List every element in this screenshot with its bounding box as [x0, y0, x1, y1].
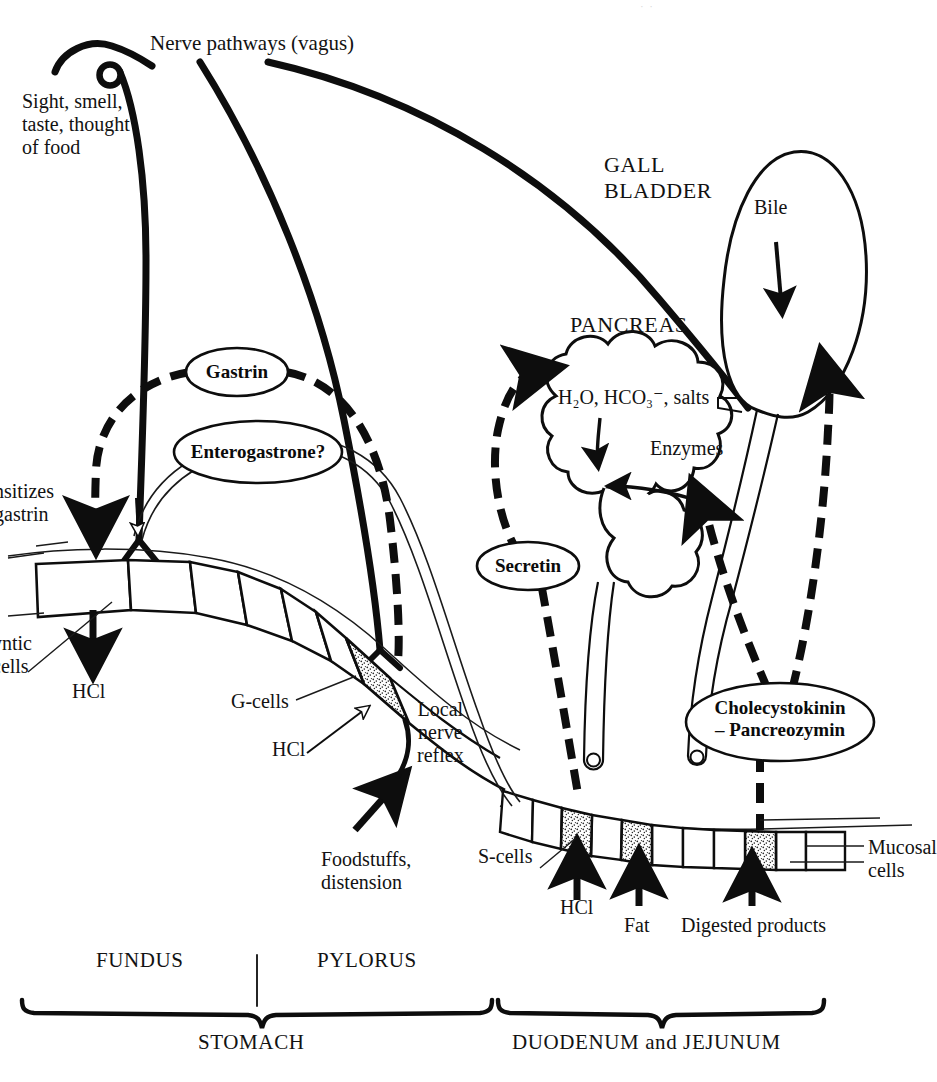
secretin-dashed-from-scells: [536, 556, 578, 794]
local-nerve-reflex-line: [398, 720, 409, 776]
stomach-label: STOMACH: [198, 1030, 305, 1054]
bile-duct-lumen: [691, 751, 704, 764]
sensitizes-tick: [36, 542, 68, 546]
enzymes-label: Enzymes: [650, 437, 723, 460]
digested-products-label: Digested products: [681, 914, 826, 937]
vagus-fundus-fork-left: [123, 540, 139, 562]
cck-dashed-to-pancreas: [706, 512, 768, 690]
duodenum-brace: [498, 1000, 824, 1028]
hcl-to-gcells-open-arrow: [307, 707, 368, 753]
duodenum-wall-group: [500, 791, 912, 870]
sight-smell-taste-label: Sight, smell, taste, thought of food: [22, 90, 130, 160]
enterogastrone-oval-label: Enterogastrone?: [163, 441, 353, 463]
s-cells-label: S-cells: [478, 845, 532, 868]
gcells-leader: [296, 676, 356, 700]
bile-label: Bile: [754, 196, 787, 219]
hcl-duodenum-label: HCl: [560, 896, 593, 919]
stomach-epithelium-cells: [36, 560, 364, 684]
cck-to-pancreas-arrowhead: [694, 486, 706, 516]
sensitizes-to-gastrin-label: nsitizes gastrin: [0, 480, 54, 526]
pancreatic-duct-lumen: [587, 754, 600, 767]
cck-oval-label: Cholecystokinin – Pancreozymin: [686, 697, 874, 740]
pancreas-lower-lobe: [600, 488, 702, 597]
fundus-label: FUNDUS: [96, 948, 184, 972]
foodstuffs-distension-label: Foodstuffs, distension: [321, 848, 411, 894]
secretin-dashed-to-pancreas: [495, 372, 534, 556]
pancreatic-duct-outer: [584, 582, 598, 760]
pancreatic-duct-inner: [603, 582, 614, 760]
gallbladder-outline: [722, 151, 867, 417]
g-cells-label: G-cells: [231, 690, 289, 713]
pancreas-secretion-label: H₂O, HCO₃⁻, salts: [558, 386, 709, 409]
hcl-stomach-label: HCl: [72, 680, 105, 703]
local-nerve-reflex-label: Local nerve reflex: [417, 698, 464, 768]
fat-label: Fat: [624, 914, 650, 937]
foodstuffs-distension-arrow: [355, 775, 404, 830]
secretin-to-pancreas-arrowhead: [530, 368, 556, 373]
hcl-gcells-label: HCl: [272, 738, 305, 761]
mucosal-tick-top: [760, 818, 880, 820]
mucosal-cells-label: Mucosal cells: [868, 836, 937, 882]
pancreas-label: PANCREAS: [570, 312, 688, 338]
mucosal-cell-plain: [714, 830, 745, 869]
pylorus-label: PYLORUS: [317, 948, 417, 972]
gastrin-oval-label: Gastrin: [162, 361, 312, 383]
vagus-ganglion-circle: [100, 65, 121, 86]
secretin-oval-label: Secretin: [453, 555, 603, 577]
gall-bladder-label: GALL BLADDER: [604, 152, 712, 203]
oxyntic-cells-label: yntic cells: [0, 632, 32, 678]
cck-dashed-to-gallbladder: [792, 374, 830, 690]
duodenum-jejunum-label: DUODENUM and JEJUNUM: [512, 1030, 781, 1054]
nerve-pathways-label: Nerve pathways (vagus): [150, 31, 354, 55]
page-header-faint: · ·: [640, 0, 653, 13]
